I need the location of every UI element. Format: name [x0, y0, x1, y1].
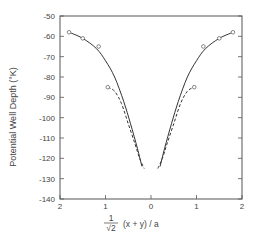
solid-curve [69, 32, 142, 166]
x-axis-title-expression: (x + y) / a [123, 219, 159, 229]
x-axis: 21012 [58, 195, 245, 211]
plot-area [60, 16, 242, 199]
x-axis-title-fraction-numerator: 1 [109, 213, 114, 223]
x-axis-title-fraction-denominator: √2 [106, 223, 116, 233]
y-tick-label: -80 [43, 73, 55, 82]
y-tick-label: -130 [39, 175, 56, 184]
chart: -50-60-70-80-90-100-110-120-130-140 2101… [0, 0, 256, 242]
y-axis: -50-60-70-80-90-100-110-120-130-140 [39, 12, 242, 204]
x-tick-label: 2 [58, 202, 63, 211]
data-point-marker [97, 45, 101, 49]
x-tick-label: 1 [103, 202, 108, 211]
y-tick-label: -90 [43, 93, 55, 102]
y-tick-label: -110 [40, 134, 56, 143]
y-tick-label: -120 [39, 154, 56, 163]
data-point-marker [231, 30, 235, 34]
plot-frame [60, 16, 242, 199]
data-point-marker [192, 85, 196, 89]
x-tick-label: 0 [149, 202, 154, 211]
data-point-marker [217, 37, 221, 41]
y-tick-label: -50 [43, 12, 55, 21]
y-tick-label: -70 [43, 53, 55, 62]
data-point-marker [81, 37, 85, 41]
dashed-curve [108, 87, 144, 168]
y-tick-label: -100 [39, 114, 56, 123]
data-point-marker [202, 45, 206, 49]
x-axis-title: 1 √2 (x + y) / a [104, 213, 159, 233]
dashed-curve [158, 87, 194, 168]
y-tick-label: -140 [39, 195, 56, 204]
x-tick-label: 2 [240, 202, 245, 211]
solid-curve [160, 32, 233, 166]
data-point-marker [106, 85, 110, 89]
x-tick-label: 1 [194, 202, 199, 211]
y-tick-label: -60 [43, 32, 55, 41]
y-axis-title: Potential Well Depth (°K) [8, 67, 18, 166]
data-point-marker [67, 30, 71, 34]
